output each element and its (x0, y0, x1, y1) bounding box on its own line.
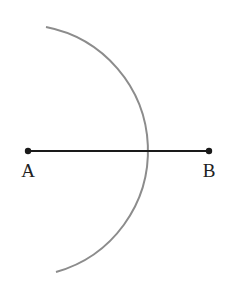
arc (46, 27, 148, 272)
geometry-diagram: A B (0, 0, 230, 302)
label-a: A (21, 160, 35, 181)
point-a (25, 148, 31, 154)
point-b (206, 148, 212, 154)
label-b: B (203, 160, 216, 181)
